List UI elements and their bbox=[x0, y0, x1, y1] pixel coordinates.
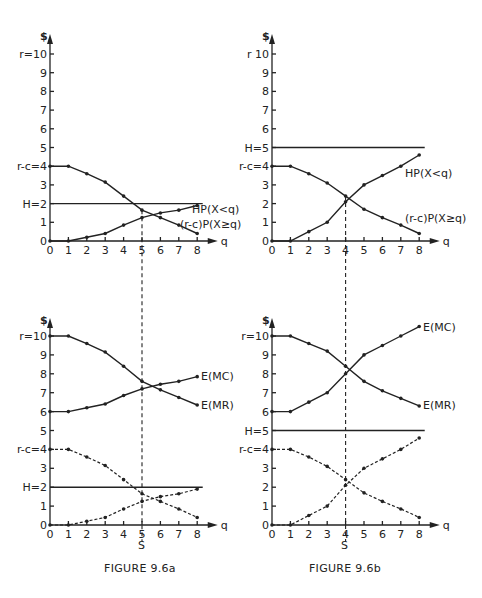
y-tick-label: 3 bbox=[40, 462, 47, 475]
y-tick-label: 0 bbox=[262, 519, 269, 532]
y-axis-label: $ bbox=[40, 30, 48, 43]
data-point bbox=[122, 364, 126, 368]
data-point bbox=[325, 465, 329, 469]
data-point bbox=[195, 403, 199, 407]
data-point bbox=[270, 448, 274, 452]
data-point bbox=[381, 500, 385, 504]
x-tick-label: 0 bbox=[269, 528, 276, 541]
y-tick-label: r=10 bbox=[19, 330, 47, 343]
data-point bbox=[307, 455, 311, 459]
y-tick-label: 7 bbox=[40, 104, 47, 117]
data-point bbox=[67, 239, 71, 243]
y-tick-label: 5 bbox=[40, 425, 47, 438]
caption-9-6b: FIGURE 9.6b bbox=[309, 562, 381, 575]
y-tick-label: r=10 bbox=[241, 330, 269, 343]
x-tick-label: 3 bbox=[102, 244, 109, 257]
y-tick-label: 1 bbox=[262, 500, 269, 513]
data-point bbox=[270, 334, 274, 338]
y-tick-label: r-c=4 bbox=[17, 160, 47, 173]
data-point bbox=[381, 174, 385, 178]
data-point bbox=[399, 164, 403, 168]
data-point bbox=[381, 216, 385, 220]
x-tick-label: 0 bbox=[47, 244, 54, 257]
y-tick-label: 6 bbox=[262, 123, 269, 136]
x-axis-label: q bbox=[443, 235, 450, 248]
y-tick-label: 2 bbox=[262, 481, 269, 494]
y-tick-label: 7 bbox=[262, 104, 269, 117]
data-point bbox=[177, 380, 181, 384]
data-point bbox=[195, 516, 199, 520]
x-tick-label: 2 bbox=[305, 528, 312, 541]
y-tick-label: 9 bbox=[262, 67, 269, 80]
data-point bbox=[195, 375, 199, 379]
data-point bbox=[85, 519, 89, 523]
x-tick-label: 1 bbox=[65, 528, 72, 541]
y-tick-label: 1 bbox=[40, 500, 47, 513]
data-point bbox=[325, 181, 329, 185]
data-point bbox=[381, 344, 385, 348]
data-point bbox=[122, 194, 126, 198]
y-axis-arrow-icon bbox=[47, 34, 53, 44]
data-point bbox=[103, 516, 107, 520]
y-axis-label: $ bbox=[40, 314, 48, 327]
data-point bbox=[67, 164, 71, 168]
emc-label-right: E(MC) bbox=[423, 321, 456, 334]
data-point bbox=[325, 349, 329, 353]
data-point bbox=[270, 523, 274, 527]
data-point bbox=[195, 487, 199, 491]
data-point bbox=[48, 239, 52, 243]
data-point bbox=[85, 342, 89, 346]
data-point bbox=[122, 394, 126, 398]
x-tick-label: 4 bbox=[120, 528, 127, 541]
data-point bbox=[177, 396, 181, 400]
data-point bbox=[177, 492, 181, 496]
y-tick-label: 5 bbox=[40, 142, 47, 155]
y-tick-label: 6 bbox=[262, 406, 269, 419]
x-axis-label: q bbox=[221, 519, 228, 532]
x-tick-label: 3 bbox=[324, 528, 331, 541]
data-point bbox=[177, 208, 181, 212]
figure-9-6: q$01234567801H=23r-c=456789r=10 q$012345… bbox=[0, 0, 482, 598]
data-point bbox=[103, 402, 107, 406]
chart-9-6b-bottom: q$0123456780123r-c=4H=56789r=10 bbox=[239, 314, 450, 541]
y-tick-label: 6 bbox=[40, 406, 47, 419]
y-axis-label: $ bbox=[262, 30, 270, 43]
x-tick-label: 8 bbox=[194, 244, 201, 257]
data-point bbox=[399, 397, 403, 401]
x-tick-label: 6 bbox=[379, 244, 386, 257]
x-axis-label: q bbox=[221, 235, 228, 248]
y-tick-label: 8 bbox=[262, 368, 269, 381]
x-axis-arrow-icon bbox=[430, 522, 440, 528]
data-point bbox=[289, 448, 293, 452]
y-tick-label: 3 bbox=[40, 179, 47, 192]
data-point bbox=[48, 523, 52, 527]
y-tick-label: 9 bbox=[262, 349, 269, 362]
data-point bbox=[159, 382, 163, 386]
s-indicator-lines bbox=[142, 196, 346, 541]
data-point bbox=[344, 200, 348, 204]
data-point bbox=[307, 400, 311, 404]
rc-label-left: (r-c)P(X≥q) bbox=[180, 218, 241, 231]
data-point bbox=[381, 389, 385, 393]
y-axis-arrow-icon bbox=[269, 34, 275, 44]
data-point bbox=[362, 207, 366, 211]
data-point bbox=[103, 180, 107, 184]
data-point bbox=[270, 164, 274, 168]
x-tick-label: 1 bbox=[287, 528, 294, 541]
data-point bbox=[307, 342, 311, 346]
x-tick-label: 4 bbox=[120, 244, 127, 257]
data-point bbox=[399, 507, 403, 511]
x-axis-label: q bbox=[443, 519, 450, 532]
x-tick-label: 1 bbox=[65, 244, 72, 257]
data-point bbox=[103, 464, 107, 468]
data-point bbox=[67, 523, 71, 527]
x-tick-label: 3 bbox=[102, 528, 109, 541]
y-tick-label: r=10 bbox=[19, 48, 47, 61]
x-tick-label: 6 bbox=[157, 244, 164, 257]
y-tick-label: r 10 bbox=[247, 48, 269, 61]
data-point bbox=[289, 239, 293, 243]
y-tick-label: 7 bbox=[262, 387, 269, 400]
data-point bbox=[48, 334, 52, 338]
emr-label-right: E(MR) bbox=[423, 399, 456, 412]
data-point bbox=[122, 223, 126, 227]
